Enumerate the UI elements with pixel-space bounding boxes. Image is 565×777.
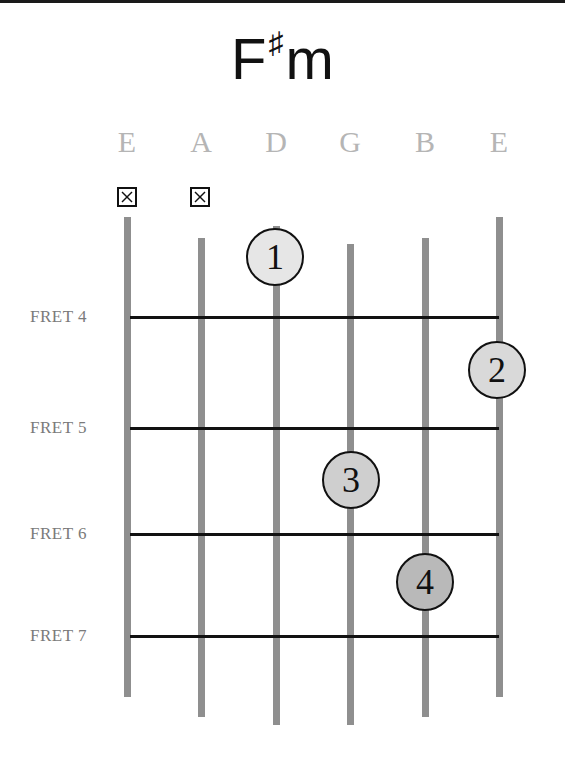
chord-root: F [231, 26, 266, 91]
finger-number: 3 [342, 459, 360, 501]
string-name-high-e: E [479, 125, 519, 159]
fret-label-4: FRET 4 [30, 307, 87, 327]
string-low-e [124, 217, 131, 697]
fret-line-5 [130, 427, 499, 430]
string-a [198, 238, 205, 717]
string-d [273, 226, 280, 725]
sharp-symbol: ♯ [269, 26, 284, 59]
fret-line-6 [130, 533, 499, 536]
fret-label-5: FRET 5 [30, 418, 87, 438]
finger-number: 4 [416, 561, 434, 603]
fret-line-7 [130, 635, 499, 638]
fret-label-7: FRET 7 [30, 626, 87, 646]
finger-dot-4: 4 [396, 553, 454, 611]
string-name-a: A [181, 125, 221, 159]
mute-x-icon-a [190, 187, 210, 207]
finger-dot-2: 2 [468, 341, 526, 399]
string-name-d: D [256, 125, 296, 159]
string-name-g: G [330, 125, 370, 159]
chord-quality: m [286, 26, 334, 91]
string-name-b: B [405, 125, 445, 159]
fret-label-6: FRET 6 [30, 524, 87, 544]
top-rule [0, 0, 565, 3]
finger-dot-3: 3 [322, 451, 380, 509]
fret-line-4 [130, 316, 499, 319]
string-name-low-e: E [107, 125, 147, 159]
mute-x-icon-low-e [117, 187, 137, 207]
finger-number: 2 [488, 349, 506, 391]
string-high-e [496, 217, 503, 697]
chord-title: F♯m [0, 28, 565, 88]
string-b [422, 238, 429, 717]
finger-number: 1 [266, 236, 284, 278]
finger-dot-1: 1 [246, 228, 304, 286]
